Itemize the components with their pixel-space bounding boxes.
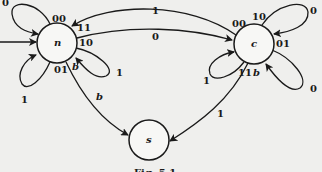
n-loop-right <box>76 48 109 77</box>
state-c-label: c <box>251 38 257 49</box>
label-n-to-s-input: b <box>96 91 103 102</box>
label-c-loop-left-input: 1 <box>203 75 210 86</box>
label-c-loop-right-b: b <box>253 67 260 78</box>
label-n-loop-right-state: 10 <box>79 37 93 48</box>
label-n-loop-left-input: 1 <box>21 94 28 105</box>
state-diagram: n c s 0 00 11 0 1 00 10 1 b 01 1 b 10 0 … <box>0 0 322 172</box>
label-c-loop-right-input: 0 <box>310 83 317 94</box>
figure-caption: Fig. 5.1 <box>134 167 176 172</box>
c-loop-right <box>266 50 303 89</box>
label-n-to-c-from: 11 <box>77 22 91 33</box>
state-n-label: n <box>54 37 61 48</box>
state-s-label: s <box>146 134 152 145</box>
label-n-to-c-input: 0 <box>152 31 159 42</box>
label-n-loop-left-state: 01 <box>54 64 68 75</box>
label-c-to-s-input: 1 <box>217 108 224 119</box>
label-c-to-n-from: 00 <box>232 18 246 29</box>
label-n-loop-top-input: 0 <box>2 0 9 8</box>
label-n-loop-right-input: 1 <box>116 67 123 78</box>
label-c-to-n-input: 1 <box>152 5 159 16</box>
label-n-loop-right-b: b <box>72 61 79 72</box>
label-c-loop-top-state: 10 <box>252 11 266 22</box>
label-c-loop-top-input: 0 <box>310 5 317 16</box>
c-loop-top <box>262 4 308 34</box>
label-c-loop-left-state: 11 <box>238 67 252 78</box>
label-c-loop-right-state: 01 <box>276 38 290 49</box>
label-n-loop-top-state: 00 <box>52 13 66 24</box>
